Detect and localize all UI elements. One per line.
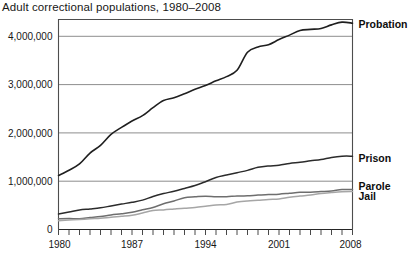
x-tick-label: 1987	[121, 239, 144, 250]
series-labels-group: ProbationPrisonParoleJail	[359, 18, 408, 202]
x-axis-tick-labels: 19801987199420012008	[48, 239, 362, 250]
series-label-probation: Probation	[359, 18, 408, 30]
y-tick-label: 4,000,000	[8, 31, 53, 42]
series-line-parole	[59, 189, 353, 218]
x-tick-label: 1980	[48, 239, 71, 250]
series-line-probation	[59, 22, 353, 175]
chart-plot-area: 01,000,0002,000,0003,000,0004,000,000 19…	[0, 0, 415, 266]
x-tick-label: 2001	[268, 239, 291, 250]
x-tick-label: 2008	[339, 239, 362, 250]
series-lines-group	[59, 22, 353, 221]
y-tick-label: 0	[47, 224, 53, 235]
x-axis-ticks	[59, 230, 353, 236]
gridlines-group	[59, 36, 353, 181]
series-line-prison	[59, 156, 353, 214]
y-tick-label: 1,000,000	[8, 176, 53, 187]
y-tick-label: 2,000,000	[8, 128, 53, 139]
y-axis-tick-labels: 01,000,0002,000,0003,000,0004,000,000	[8, 31, 53, 235]
chart-figure: Adult correctional populations, 1980–200…	[0, 0, 415, 266]
plot-border	[59, 20, 353, 230]
y-tick-label: 3,000,000	[8, 79, 53, 90]
plot-frame	[59, 20, 353, 230]
series-label-prison: Prison	[359, 152, 392, 164]
series-label-jail: Jail	[359, 190, 377, 202]
x-tick-label: 1994	[194, 239, 217, 250]
